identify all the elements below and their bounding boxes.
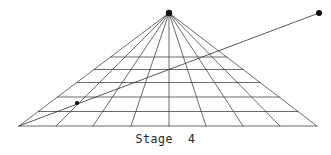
vanishing-point-dot [166, 10, 172, 16]
external-point-dot [316, 10, 322, 16]
figure-caption: Stage 4 [0, 132, 331, 146]
figure-root: Stage 4 [0, 0, 331, 155]
grid-intersection-dot [75, 101, 79, 105]
